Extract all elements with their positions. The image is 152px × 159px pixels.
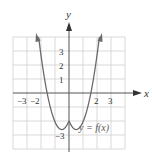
x-axis-label: x [143, 87, 149, 99]
x-tick-label: −3 [17, 96, 27, 106]
y-tick-label: 2 [59, 61, 64, 71]
y-axis-label: y [65, 8, 71, 20]
y-tick-label: 3 [59, 47, 64, 57]
x-axis-arrow-icon [133, 90, 142, 96]
x-tick-label: −2 [30, 96, 40, 106]
y-tick-label: −3 [55, 131, 65, 141]
x-tick-label: 2 [94, 96, 99, 106]
x-tick-label: 3 [108, 96, 113, 106]
function-label: y = f(x) [78, 122, 110, 134]
curve-right-arrow-icon [98, 33, 103, 42]
curve-left-arrow-icon [36, 33, 41, 42]
y-tick-label: 1 [59, 75, 64, 85]
function-graph: y x −3 −2 2 3 3 2 1 −3 y = f(x) [0, 0, 152, 159]
y-axis-arrow-icon [66, 22, 72, 31]
y-axis [66, 22, 72, 152]
